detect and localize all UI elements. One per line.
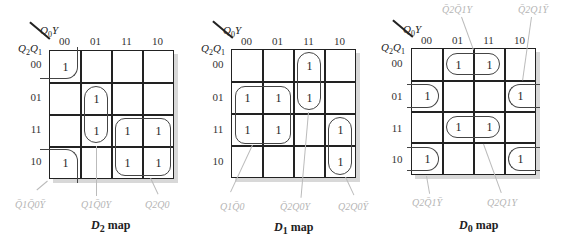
row-variable-label: Q2Q1 — [18, 42, 42, 57]
col-header: 10 — [504, 34, 535, 46]
map-caption: D0 map — [459, 218, 498, 234]
row-header: 00 — [387, 57, 407, 69]
group-loop-corner-top — [40, 47, 78, 79]
term-label: Q1Q̄0Y — [81, 199, 111, 210]
row-header: 11 — [208, 123, 228, 135]
term-label: Q̄2Q0Y — [280, 201, 310, 212]
col-header: 00 — [231, 35, 262, 47]
row-header: 00 — [208, 58, 228, 70]
map-caption: D2 map — [91, 218, 130, 234]
kmap-d0: Q0Y Q2Q1 00 01 11 10 00 01 11 10 1 1 1 1… — [375, 0, 561, 242]
group-loop-vertical — [328, 117, 352, 175]
col-header: 11 — [111, 35, 142, 47]
col-header: 00 — [49, 35, 80, 47]
group-loop-quad — [235, 86, 291, 144]
term-label: Q̄2Q̄1Y — [442, 4, 472, 15]
row-header: 11 — [387, 122, 407, 134]
col-header: 11 — [473, 34, 504, 46]
group-loop-wrap-right — [508, 147, 540, 171]
term-label: Q1Q̄0 — [220, 201, 244, 212]
col-header: 10 — [324, 35, 355, 47]
group-loop-wrap-left — [407, 84, 439, 108]
term-label: Q2Q0 — [145, 199, 169, 210]
row-header: 10 — [387, 153, 407, 165]
col-header: 10 — [142, 35, 173, 47]
row-variable-label: Q2Q1 — [381, 41, 405, 56]
row-header: 01 — [26, 91, 46, 103]
kmap-d2: Q0Y Q2Q1 00 01 11 10 00 01 11 10 1 1 1 1… — [0, 0, 190, 242]
row-header: 10 — [208, 155, 228, 167]
group-loop-corner-bottom — [40, 149, 78, 183]
group-loop-quad — [115, 118, 171, 176]
row-header: 11 — [26, 123, 46, 135]
col-header: 11 — [293, 35, 324, 47]
group-loop-wrap-left — [407, 147, 439, 171]
row-variable-label: Q2Q1 — [201, 42, 225, 57]
term-label: Q̄1Q̄0Ȳ — [15, 199, 45, 210]
term-label: Q2Q1Y — [487, 197, 517, 208]
group-loop-vertical — [297, 52, 321, 110]
term-label: Q̄2Q1Ȳ — [518, 4, 548, 15]
term-label: Q2Q̄1Ȳ — [412, 197, 442, 208]
col-header: 01 — [80, 35, 111, 47]
group-loop-wrap-right — [508, 84, 540, 108]
kmap-d1: Q0Y Q2Q1 00 01 11 10 00 01 11 10 1 1 1 1… — [190, 0, 375, 242]
group-loop-horizontal — [446, 53, 500, 75]
col-header: 00 — [411, 34, 442, 46]
group-loop-vertical — [84, 86, 108, 143]
row-header: 01 — [387, 90, 407, 102]
term-label: Q2Q0Ȳ — [338, 201, 368, 212]
row-header: 01 — [208, 91, 228, 103]
map-caption: D1 map — [274, 220, 313, 236]
col-header: 01 — [262, 35, 293, 47]
group-loop-horizontal — [446, 116, 500, 138]
